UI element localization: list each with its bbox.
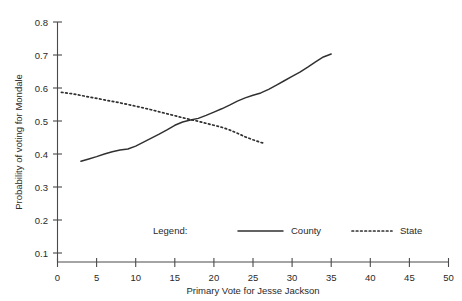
x-tick-label-30: 30 (287, 272, 298, 283)
series-line-state (61, 92, 264, 143)
line-chart: 0.8 0.7 0.6 0.5 0.4 0.3 0.2 0.1 0 5 10 (0, 0, 462, 301)
y-tick-label-0.7: 0.7 (35, 50, 48, 61)
chart-legend: Legend: County State (153, 225, 422, 236)
x-tick-label-20: 20 (209, 272, 220, 283)
x-tick-label-50: 50 (443, 272, 454, 283)
y-axis-title: Probability of voting for Mondale (13, 74, 24, 210)
x-tick-label-25: 25 (248, 272, 259, 283)
y-tick-label-0.5: 0.5 (35, 116, 48, 127)
y-tick-label-0.8: 0.8 (35, 17, 48, 28)
y-tick-label-0.3: 0.3 (35, 182, 48, 193)
x-tick-label-15: 15 (170, 272, 181, 283)
y-tick-label-0.4: 0.4 (35, 149, 48, 160)
x-tick-label-45: 45 (404, 272, 415, 283)
y-tick-label-0.6: 0.6 (35, 83, 48, 94)
x-tick-label-35: 35 (326, 272, 337, 283)
x-tick-label-5: 5 (94, 272, 99, 283)
legend-title: Legend: (153, 225, 187, 236)
legend-label-county: County (291, 225, 321, 236)
x-tick-label-0: 0 (55, 272, 60, 283)
axes (58, 22, 449, 262)
legend-label-state: State (400, 225, 422, 236)
series-line-county (81, 54, 331, 161)
y-tick-label-0.1: 0.1 (35, 248, 48, 259)
x-tick-label-40: 40 (365, 272, 376, 283)
chart-figure: 0.8 0.7 0.6 0.5 0.4 0.3 0.2 0.1 0 5 10 (0, 0, 462, 301)
series-group (61, 54, 331, 161)
y-tick-label-0.2: 0.2 (35, 215, 48, 226)
x-axis-title: Primary Vote for Jesse Jackson (186, 285, 319, 296)
x-tick-label-10: 10 (130, 272, 141, 283)
